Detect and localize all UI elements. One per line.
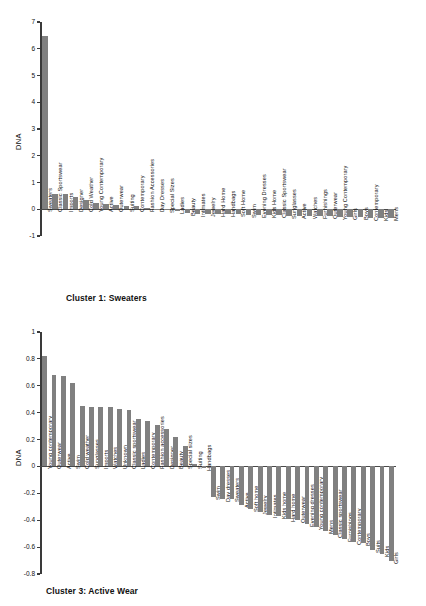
- x-axis-category-label: Beauty: [190, 198, 196, 216]
- y-axis-tick-label: -0.4: [14, 516, 35, 523]
- y-axis-tick: [37, 358, 40, 359]
- y-axis-tick-label: 4: [14, 98, 35, 105]
- x-axis-category-label: Day Dresses: [159, 179, 165, 212]
- x-axis-category-label: Special Sizes: [169, 178, 175, 213]
- plot-area-chart2: -0.8-0.6-0.4-0.200.20.40.60.81Young cont…: [40, 332, 396, 574]
- y-axis-tick: [37, 75, 40, 76]
- y-axis-tick-label: 0: [14, 462, 35, 469]
- y-axis-tick-label: 1: [14, 328, 35, 335]
- y-axis-tick-label: -0.6: [14, 543, 35, 550]
- y-axis-tick: [37, 573, 40, 574]
- y-axis-tick-label: 0.2: [14, 436, 35, 443]
- x-axis-category-label: Girls: [393, 552, 399, 564]
- y-axis-tick-label: 0.6: [14, 382, 35, 389]
- bar: [380, 466, 385, 553]
- y-axis-tick-label: 3: [14, 125, 35, 132]
- y-axis-tick-label: -0.2: [14, 489, 35, 496]
- y-axis-tick: [37, 155, 40, 156]
- bar: [70, 383, 75, 466]
- chart-caption-cluster-1: Cluster 1: Sweaters: [66, 293, 147, 303]
- bar: [370, 466, 375, 549]
- y-axis-tick: [37, 235, 40, 236]
- y-axis-tick: [37, 48, 40, 49]
- y-axis-tick: [37, 128, 40, 129]
- plot-area-chart1: -101234567SweatersClassic SportswearImpo…: [40, 22, 396, 236]
- y-axis-tick: [37, 439, 40, 440]
- y-axis-tick: [37, 412, 40, 413]
- y-axis-tick-label: 2: [14, 152, 35, 159]
- y-axis-tick: [37, 102, 40, 103]
- y-axis-tick-label: -0.8: [14, 570, 35, 577]
- y-axis-tick: [37, 520, 40, 521]
- y-axis-tick-label: 0.4: [14, 409, 35, 416]
- bar: [361, 466, 366, 543]
- figure-page: DNA -101234567SweatersClassic Sportswear…: [0, 0, 426, 606]
- y-axis-tick-label: 5: [14, 72, 35, 79]
- x-axis-category-label: Suiting: [129, 194, 135, 212]
- y-axis-tick-label: 0.8: [14, 355, 35, 362]
- y-axis-tick: [37, 385, 40, 386]
- x-axis-category-label: Mens: [393, 207, 399, 221]
- y-axis-tick-label: 0: [14, 205, 35, 212]
- y-axis-tick-label: 1: [14, 179, 35, 186]
- y-axis-tick: [37, 331, 40, 332]
- y-axis-tick-label: -1: [14, 232, 35, 239]
- y-axis-tick-label: 6: [14, 45, 35, 52]
- bar: [389, 466, 394, 560]
- chart-caption-cluster-3: Cluster 3: Active Wear: [46, 586, 138, 596]
- chart-cluster-3: DNA -0.8-0.6-0.4-0.200.20.40.60.81Young …: [0, 318, 426, 606]
- y-axis-tick: [37, 21, 40, 22]
- y-axis-tick: [37, 547, 40, 548]
- bar: [42, 36, 48, 209]
- x-axis-category-label: Fashion Accessories: [149, 159, 155, 212]
- y-axis-tick-label: 7: [14, 18, 35, 25]
- y-axis-tick: [37, 493, 40, 494]
- y-axis-label-chart1: DNA: [14, 133, 23, 150]
- chart-cluster-1: DNA -101234567SweatersClassic Sportswear…: [0, 0, 426, 310]
- y-axis-tick: [37, 182, 40, 183]
